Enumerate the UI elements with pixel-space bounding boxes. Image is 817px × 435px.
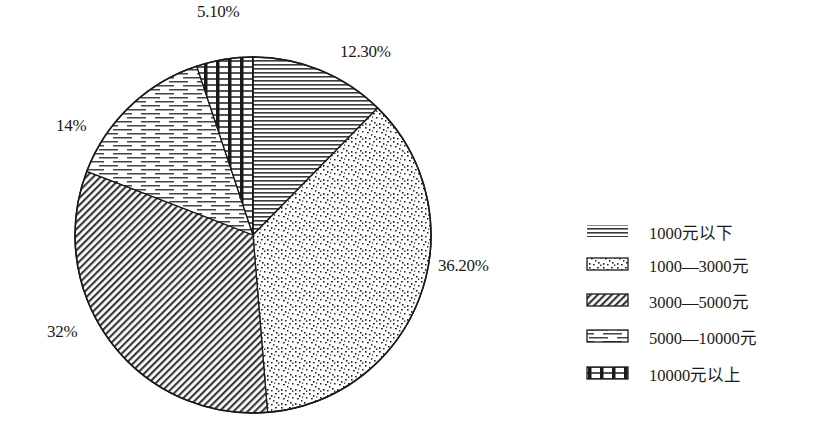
legend-swatch-icon <box>587 367 628 379</box>
legend-label: 1000—3000元 <box>649 253 749 277</box>
slice-label-3000-5000: 32% <box>47 322 77 342</box>
legend-label: 1000元以下 <box>649 220 733 244</box>
legend-label: 3000—5000元 <box>649 289 749 313</box>
legend-label: 5000—10000元 <box>649 325 757 349</box>
legend-swatches <box>587 225 628 379</box>
slice-label-1000-3000: 36.20% <box>438 256 489 276</box>
legend-swatch-icon <box>587 225 628 237</box>
slice-label-5000-10000: 14% <box>56 116 86 136</box>
legend-swatch-icon <box>587 330 628 342</box>
legend-swatch-icon <box>587 294 628 306</box>
slice-label-10000-above: 5.10% <box>197 2 239 22</box>
pie-slices <box>75 57 431 413</box>
legend-swatch-icon <box>587 258 628 270</box>
legend-label: 10000元以上 <box>649 362 741 386</box>
slice-label-1000-below: 12.30% <box>340 42 391 62</box>
